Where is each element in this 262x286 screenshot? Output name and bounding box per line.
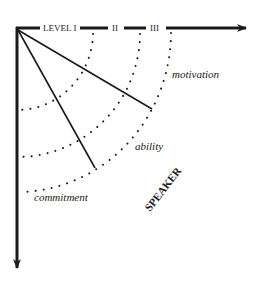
arc-level-3 — [20, 33, 171, 192]
motivation-line — [18, 30, 152, 109]
speaker-label: SPEAKER — [142, 164, 184, 213]
ability-label: ability — [135, 140, 163, 152]
arc-level-2 — [20, 34, 140, 157]
commitment-label: commitment — [34, 191, 89, 203]
level-1-label: LEVEL I — [43, 23, 76, 33]
motivation-label: motivation — [172, 68, 220, 80]
ability-line — [18, 30, 95, 168]
level-3-label: III — [150, 23, 159, 33]
speaker-levels-diagram: LEVEL I II III motivation ability commit… — [0, 0, 262, 286]
level-2-label: II — [112, 23, 118, 33]
